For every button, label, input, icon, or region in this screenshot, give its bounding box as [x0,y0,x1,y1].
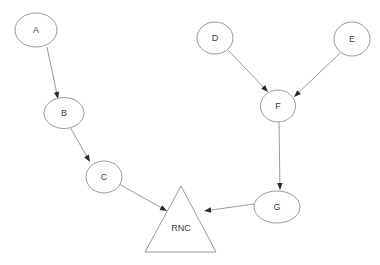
node-a[interactable]: A [15,13,57,47]
arrowhead-icon [204,207,211,212]
edge-f-to-g [277,122,282,190]
edge-line [279,122,280,184]
edge-g-to-rnc [204,204,254,213]
edge-line [47,47,57,93]
arrowhead-icon [160,205,167,211]
node-f[interactable]: F [261,90,296,122]
arrowhead-icon [277,183,282,190]
node-e[interactable]: E [334,22,370,56]
node-c[interactable]: C [86,161,122,193]
edge-b-to-c [70,127,90,162]
node-label-g: G [273,202,280,212]
edge-line [210,204,254,210]
diagram-canvas: ABCDEFGRNC [0,0,380,265]
node-label-f: F [275,101,281,111]
node-label-d: D [212,33,219,43]
edge-e-to-f [294,53,340,97]
node-rnc[interactable]: RNC [145,186,216,252]
arrowhead-icon [84,155,90,162]
edge-line [228,50,264,88]
node-label-a: A [33,25,39,35]
node-b[interactable]: B [44,98,84,129]
edge-line [119,184,162,208]
node-label-rnc: RNC [171,223,191,233]
node-label-b: B [61,108,67,118]
diagram-svg: ABCDEFGRNC [0,0,380,265]
node-label-e: E [349,34,355,44]
edge-d-to-f [228,50,268,92]
node-g[interactable]: G [254,191,300,223]
edge-line [70,127,87,157]
edge-c-to-rnc [119,184,167,211]
node-triangle[interactable] [145,186,216,252]
edge-line [298,53,340,93]
edge-a-to-b [47,47,59,99]
node-layer: ABCDEFGRNC [15,13,370,252]
node-label-c: C [101,172,108,182]
node-d[interactable]: D [197,22,233,54]
